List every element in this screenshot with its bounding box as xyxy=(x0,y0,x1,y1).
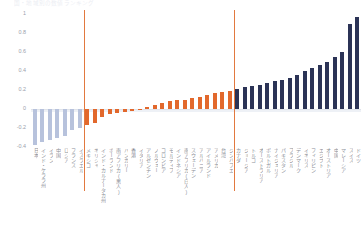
chart-container: 国・地域別の数値ランキング 10.80.60.40.20-0.2-0.4 日本イ… xyxy=(0,0,363,239)
bar xyxy=(235,89,239,109)
bar xyxy=(153,105,157,109)
x-axis-label: 中国 xyxy=(331,148,338,206)
bar xyxy=(325,62,329,110)
bar xyxy=(123,109,127,112)
bar xyxy=(243,87,247,109)
x-axis-label: インドネシア xyxy=(174,148,181,206)
bar xyxy=(33,109,37,145)
bar xyxy=(318,65,322,109)
bar xyxy=(213,93,217,109)
bar xyxy=(183,100,187,110)
plot-area xyxy=(31,14,361,147)
x-axis-label: インド・カルナータカ州 xyxy=(99,148,106,206)
x-axis-label: モルディブ xyxy=(166,148,173,206)
bar xyxy=(70,109,74,130)
bar xyxy=(160,103,164,109)
x-axis-label: イラン xyxy=(46,148,53,206)
x-axis-label: アイルランド xyxy=(204,148,211,206)
x-axis-label: トルコ xyxy=(249,148,256,206)
bar xyxy=(168,101,172,109)
bar xyxy=(280,80,284,109)
x-axis-label: イタリア xyxy=(136,148,143,206)
x-axis-label: インド・ケララ州 xyxy=(39,148,46,206)
x-axis-label: フランス xyxy=(69,148,76,206)
bar xyxy=(190,98,194,109)
y-axis-tick: 0 xyxy=(0,106,26,111)
bar xyxy=(355,17,359,109)
x-axis-label: イスラエル xyxy=(76,148,83,206)
bar xyxy=(220,92,224,109)
bar xyxy=(333,57,337,109)
x-axis-label: オーストラリア xyxy=(256,148,263,206)
x-axis-label: スウェーデン xyxy=(189,148,196,206)
bar xyxy=(205,95,209,109)
bar xyxy=(310,68,314,109)
y-axis-tick: 0.6 xyxy=(0,49,26,54)
x-axis-label: ギリシャ xyxy=(91,148,98,206)
bar-series xyxy=(31,14,361,147)
x-axis-label: アルゼンチン xyxy=(144,148,151,206)
bar xyxy=(55,109,59,138)
x-axis-label: 台湾 xyxy=(219,148,226,206)
x-axis-label: コロンビア xyxy=(159,148,166,206)
bar xyxy=(273,81,277,109)
x-axis-label: デンマーク xyxy=(294,148,301,206)
chart-title: 国・地域別の数値ランキング xyxy=(14,0,274,8)
y-axis-tick: -0.4 xyxy=(0,144,26,149)
x-axis-label: アメリカ xyxy=(211,148,218,206)
bar xyxy=(348,24,352,110)
bar xyxy=(100,109,104,117)
x-axis-label: オーストリア xyxy=(324,148,331,206)
bar xyxy=(130,109,134,111)
bar xyxy=(288,78,292,109)
bar xyxy=(108,109,112,114)
x-axis-label: 香港 xyxy=(129,148,136,206)
x-axis-label: 中国 xyxy=(54,148,61,206)
x-axis-label: ナイジェリア xyxy=(271,148,278,206)
y-axis-tick: 1 xyxy=(0,11,26,16)
bar xyxy=(175,100,179,109)
bar xyxy=(258,85,262,109)
x-axis-label: アルバニア xyxy=(196,148,203,206)
bar xyxy=(93,109,97,123)
x-axis-label: ジョージア xyxy=(241,148,248,206)
x-axis-label: 南アフリカ(白人) xyxy=(181,148,188,206)
bar xyxy=(40,109,44,142)
bar xyxy=(295,75,299,109)
bar xyxy=(138,109,142,110)
bar xyxy=(250,86,254,109)
x-axis-label: 日本 xyxy=(31,148,38,206)
bar xyxy=(63,109,67,136)
x-axis-label: ポルトガル xyxy=(264,148,271,206)
x-axis-label: ハンガリー xyxy=(121,148,128,206)
y-axis-tick: 0.8 xyxy=(0,30,26,35)
x-axis-label: フィリピン xyxy=(309,148,316,206)
x-axis-label: スイス xyxy=(346,148,353,206)
y-axis-tick: -0.2 xyxy=(0,125,26,130)
bar xyxy=(145,107,149,109)
bar xyxy=(48,109,52,140)
bar xyxy=(78,109,82,128)
x-axis-label: ブラジル xyxy=(286,148,293,206)
y-axis: 10.80.60.40.20-0.2-0.4 xyxy=(0,14,29,147)
x-axis-label: ノルウェー xyxy=(151,148,158,206)
x-axis-labels: 日本インド・ケララ州イラン中国ロシアフランスイスラエルメキシコギリシャインド・カ… xyxy=(31,148,361,210)
bar xyxy=(198,97,202,109)
x-axis-label: 南アフリカ(黒人) xyxy=(114,148,121,206)
x-axis-label: カナダ xyxy=(234,148,241,206)
bar xyxy=(228,91,232,109)
bar xyxy=(303,71,307,109)
y-axis-tick: 0.2 xyxy=(0,87,26,92)
x-axis-label: マレーシア xyxy=(339,148,346,206)
x-axis-label: イギリス xyxy=(301,148,308,206)
x-axis-label: パキスタン xyxy=(279,148,286,206)
x-axis-label: ロシア xyxy=(61,148,68,206)
x-axis-label: ポーランド xyxy=(106,148,113,206)
bar xyxy=(115,109,119,113)
x-axis-label: ドイツ xyxy=(354,148,361,206)
x-axis-label: エジプト xyxy=(316,148,323,206)
bar xyxy=(265,83,269,109)
bar xyxy=(85,109,89,125)
x-axis-label: ジンバブエ xyxy=(226,148,233,206)
x-axis-label: メキシコ xyxy=(84,148,91,206)
